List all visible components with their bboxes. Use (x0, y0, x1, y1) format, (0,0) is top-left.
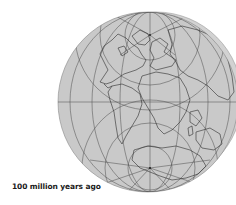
map-caption: 100 million years ago (12, 182, 101, 191)
globe-map (0, 0, 236, 205)
globe-svg (0, 0, 236, 205)
north-pole-marker (149, 34, 151, 36)
south-pole-marker (149, 167, 151, 169)
